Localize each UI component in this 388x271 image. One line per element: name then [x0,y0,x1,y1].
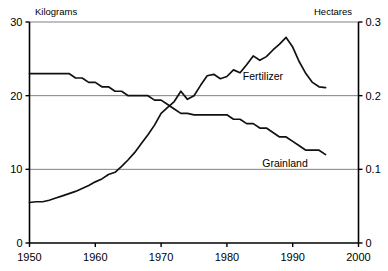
y-tick-label-right: 0 [366,237,372,249]
x-tick-label: 1990 [280,251,304,263]
x-tick-label: 1980 [215,251,239,263]
y-tick-label-left: 0 [16,237,22,249]
x-tick-label: 1950 [17,251,41,263]
annotation-fertilizer: Fertilizer [243,70,284,82]
annotation-grainland: Grainland [262,157,308,169]
line-chart: Kilograms Hectares 0102030 00.10.20.3 19… [0,0,388,271]
y-tick-label-left: 20 [10,90,22,102]
y-tick-label-left: 10 [10,163,22,175]
chart-container: Kilograms Hectares 0102030 00.10.20.3 19… [0,0,388,271]
y-tick-label-right: 0.1 [366,163,381,175]
x-tick-label: 1960 [83,251,107,263]
left-axis-unit-label: Kilograms [35,6,77,17]
right-axis-unit-label: Hectares [314,6,352,17]
y-tick-label-right: 0.3 [366,16,381,28]
x-tick-label: 1970 [149,251,173,263]
y-tick-label-left: 30 [10,16,22,28]
y-tick-label-right: 0.2 [366,90,381,102]
x-tick-label: 2000 [346,251,370,263]
chart-background [0,0,388,271]
